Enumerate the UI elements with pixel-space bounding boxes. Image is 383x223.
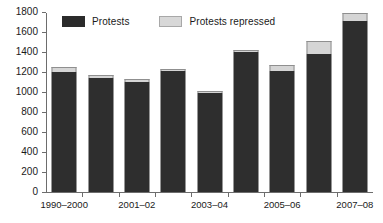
bar (124, 79, 149, 192)
y-axis-tick-label: 200 (21, 166, 38, 177)
bar (342, 13, 367, 192)
bar-segment-protests (197, 93, 222, 192)
bar-segment-protests (124, 82, 149, 192)
bar-segment-protests-repressed (306, 41, 331, 54)
x-axis-label: 2001–02 (118, 199, 155, 210)
x-axis-tick (119, 193, 120, 197)
x-axis-label: 2007–08 (336, 199, 373, 210)
bar-segment-protests-repressed (342, 13, 367, 21)
x-axis-tick (191, 193, 192, 197)
y-axis-tick-label: 1600 (16, 26, 38, 37)
x-axis-tick (264, 193, 265, 197)
y-axis-tick-label: 800 (21, 106, 38, 117)
plot-area: 020040060080010001200140016001800 1990–2… (46, 13, 373, 193)
x-axis-tick (300, 193, 301, 197)
bar-segment-protests (88, 78, 113, 192)
x-axis-label: 2003–04 (191, 199, 228, 210)
bar-segment-protests (306, 54, 331, 192)
bar (52, 67, 77, 192)
protests-stacked-bar-chart: Protests Protests repressed 020040060080… (0, 0, 383, 223)
y-axis-tick: 600 (42, 132, 46, 133)
bar-segment-protests (270, 71, 295, 193)
bar (197, 91, 222, 193)
y-axis-tick: 1800 (42, 12, 46, 13)
y-axis-line (46, 13, 47, 193)
bar (233, 50, 258, 192)
y-axis-tick: 0 (42, 192, 46, 193)
y-axis-tick: 1600 (42, 32, 46, 33)
bar-segment-protests (161, 71, 186, 192)
x-axis-label: 2005–06 (264, 199, 301, 210)
y-axis-tick-label: 1000 (16, 86, 38, 97)
x-axis-tick (337, 193, 338, 197)
bar-segment-protests (342, 21, 367, 192)
y-axis-tick-label: 0 (32, 186, 38, 197)
x-axis-tick (155, 193, 156, 197)
bar (88, 75, 113, 192)
y-axis-tick-label: 400 (21, 146, 38, 157)
x-axis-label: 1990–2000 (40, 199, 88, 210)
y-axis-tick-label: 1400 (16, 46, 38, 57)
y-axis-tick-label: 600 (21, 126, 38, 137)
y-axis-tick: 1400 (42, 52, 46, 53)
x-axis-tick (82, 193, 83, 197)
bar-segment-protests (233, 52, 258, 192)
y-axis-tick: 1200 (42, 72, 46, 73)
bar-segment-protests (52, 72, 77, 192)
y-axis-tick-label: 1800 (16, 6, 38, 17)
bar (161, 69, 186, 193)
bar (306, 41, 331, 192)
y-axis-tick: 200 (42, 172, 46, 173)
y-axis-tick-label: 1200 (16, 66, 38, 77)
x-axis-line (46, 192, 373, 193)
y-axis-tick: 400 (42, 152, 46, 153)
x-axis-tick (228, 193, 229, 197)
bar (270, 65, 295, 193)
y-axis-tick: 800 (42, 112, 46, 113)
y-axis-tick: 1000 (42, 92, 46, 93)
